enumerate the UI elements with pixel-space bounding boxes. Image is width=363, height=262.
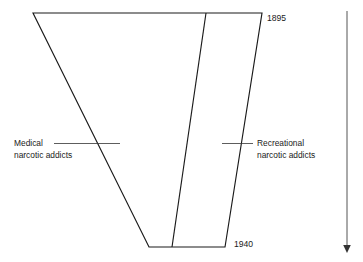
diagram-canvas: 1895 1940 Medical narcotic addicts Recre… — [0, 0, 363, 262]
recreational-label-line-1: Recreational — [257, 138, 304, 148]
down-arrow-icon — [343, 245, 351, 253]
year-label-top: 1895 — [267, 13, 286, 23]
recreational-label-line-2: narcotic addicts — [257, 150, 315, 160]
medical-label-line-2: narcotic addicts — [14, 150, 72, 160]
figure-container: 1895 1940 Medical narcotic addicts Recre… — [0, 0, 363, 262]
addict-population-funnel-shape — [33, 13, 262, 247]
medical-label-line-1: Medical — [14, 138, 43, 148]
year-label-bottom: 1940 — [234, 239, 253, 249]
